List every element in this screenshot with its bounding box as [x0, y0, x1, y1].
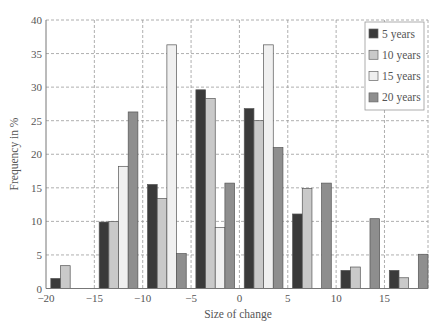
- bar-20-years: [370, 219, 380, 289]
- y-tick-label: 35: [31, 48, 43, 60]
- legend-label: 10 years: [382, 49, 421, 62]
- bar-20-years: [273, 148, 283, 289]
- bar-20-years: [225, 183, 235, 288]
- bar-10-years: [157, 199, 167, 289]
- legend-label: 20 years: [382, 91, 421, 104]
- bar-10-years: [302, 188, 312, 288]
- y-tick-label: 40: [31, 14, 43, 26]
- bar-5-years: [341, 270, 351, 288]
- x-axis-title: Size of change: [204, 308, 272, 321]
- bar-20-years: [128, 112, 138, 289]
- y-tick-label: 20: [31, 148, 43, 160]
- x-tick-label: 5: [285, 292, 291, 304]
- y-tick-label: 10: [31, 215, 43, 227]
- y-tick-label: 5: [37, 249, 43, 261]
- y-tick-label: 15: [31, 182, 43, 194]
- bar-20-years: [177, 254, 187, 289]
- x-tick-label: 15: [379, 292, 391, 304]
- bar-5-years: [196, 90, 206, 289]
- bar-20-years: [322, 183, 332, 288]
- bar-15-years: [264, 45, 274, 289]
- bar-10-years: [206, 99, 216, 289]
- bar-5-years: [99, 222, 109, 288]
- y-tick-labels: 0510152025303540: [31, 14, 43, 295]
- legend-swatch: [369, 72, 378, 81]
- legend-label: 15 years: [382, 70, 421, 83]
- x-tick-label: −5: [185, 292, 197, 304]
- y-axis-title: Frequency in %: [8, 117, 21, 190]
- bar-10-years: [399, 278, 409, 289]
- legend-swatch: [369, 93, 378, 102]
- bar-10-years: [109, 221, 119, 288]
- bar-5-years: [293, 214, 303, 289]
- x-tick-labels: −20−15−10−5051015: [37, 292, 390, 304]
- bar-15-years: [119, 166, 129, 288]
- x-tick-label: −15: [86, 292, 104, 304]
- y-tick-label: 30: [31, 81, 43, 93]
- bar-10-years: [351, 267, 361, 288]
- y-tick-label: 25: [31, 115, 43, 127]
- bar-15-years: [215, 227, 225, 288]
- legend-swatch: [369, 50, 378, 59]
- bar-10-years: [254, 121, 264, 289]
- x-tick-label: −10: [134, 292, 152, 304]
- x-tick-label: −20: [37, 292, 55, 304]
- bar-5-years: [148, 184, 158, 288]
- legend-swatch: [369, 29, 378, 38]
- bar-15-years: [167, 45, 177, 289]
- x-tick-label: 10: [331, 292, 343, 304]
- legend-label: 5 years: [382, 28, 415, 41]
- legend: 5 years10 years15 years20 years: [365, 22, 424, 110]
- bar-5-years: [244, 109, 254, 289]
- histogram-chart: 0510152025303540 −20−15−10−5051015 Size …: [0, 0, 443, 329]
- bar-5-years: [389, 270, 399, 288]
- bar-20-years: [418, 254, 428, 288]
- x-tick-label: 0: [237, 292, 243, 304]
- bar-5-years: [51, 278, 61, 288]
- bar-10-years: [61, 266, 71, 289]
